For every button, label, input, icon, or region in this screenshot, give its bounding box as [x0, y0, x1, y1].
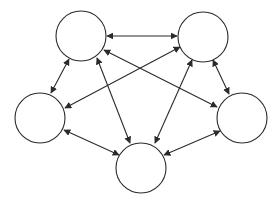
edge-bottom-to-right — [164, 131, 220, 155]
edge-left-to-bottom — [64, 130, 119, 155]
complete-graph-diagram — [0, 0, 279, 201]
node-right — [217, 93, 267, 143]
node-left — [15, 93, 65, 143]
node-top-left — [56, 11, 106, 61]
node-top-right — [178, 12, 228, 62]
edge-top-right-to-bottom — [155, 60, 192, 143]
node-bottom — [116, 143, 166, 193]
edge-top-left-to-bottom — [97, 58, 130, 143]
nodes-layer — [15, 11, 267, 193]
edge-top-left-to-left — [51, 59, 69, 93]
edge-top-right-to-right — [213, 60, 229, 94]
